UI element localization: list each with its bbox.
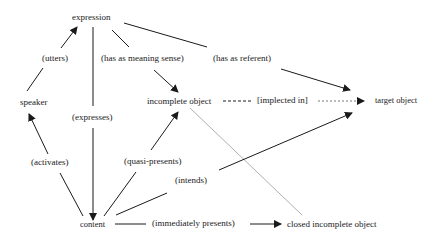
node-incomplete-object: incomplete object — [147, 97, 211, 106]
edge-activates-speaker — [29, 114, 48, 154]
edge-label-implected-in: [implected in] — [257, 96, 308, 105]
edge-label-intends: (intends) — [175, 176, 207, 185]
node-speaker: speaker — [20, 98, 47, 107]
edge-intends-target — [219, 113, 352, 170]
edge-meaning-incomplete — [154, 70, 178, 92]
edge-label-expresses: (expresses) — [72, 113, 112, 122]
edge-content-activates — [60, 173, 83, 216]
diagram-edges — [0, 0, 446, 244]
node-content: content — [80, 220, 105, 229]
edge-incomplete-closed — [190, 108, 302, 215]
edge-label-quasi-presents: (quasi-presents) — [124, 157, 181, 166]
node-target-object: target object — [375, 96, 417, 105]
edge-referent-target — [281, 69, 350, 90]
edge-expression-referent — [124, 23, 207, 47]
concept-diagram: expression speaker incomplete object tar… — [0, 0, 446, 244]
edge-quasi-incomplete — [151, 112, 178, 150]
edge-label-activates: (activates) — [31, 158, 68, 167]
edge-content-quasi — [104, 172, 136, 216]
edge-label-immediately-presents: (immediately presents) — [152, 219, 235, 228]
node-expression: expression — [72, 13, 111, 22]
edge-label-has-as-meaning-sense: (has as meaning sense) — [101, 54, 184, 63]
node-closed-incomplete-object: closed incomplete object — [287, 220, 376, 229]
edge-label-has-as-referent: (has as referent) — [213, 54, 271, 63]
edge-expression-meaning — [112, 30, 129, 47]
edge-label-utters: (utters) — [42, 54, 68, 63]
edge-speaker-utters — [27, 68, 43, 91]
edge-content-intends — [116, 193, 167, 215]
edge-utters-expression — [61, 27, 77, 48]
